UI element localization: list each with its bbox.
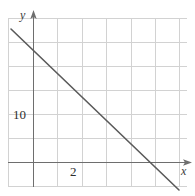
linear-graph-figure: y x 10 2 [0, 0, 195, 196]
y-axis-label: y [20, 9, 25, 21]
y-axis [30, 10, 36, 187]
grid-lines-vertical [9, 18, 180, 187]
grid-lines-horizontal [8, 19, 187, 187]
plot-canvas [0, 0, 195, 196]
x-axis-label: x [181, 165, 186, 177]
x-tick-label-2: 2 [70, 165, 77, 178]
data-line-series-1 [11, 29, 179, 190]
y-tick-label-10: 10 [13, 108, 26, 121]
x-axis [8, 159, 192, 165]
